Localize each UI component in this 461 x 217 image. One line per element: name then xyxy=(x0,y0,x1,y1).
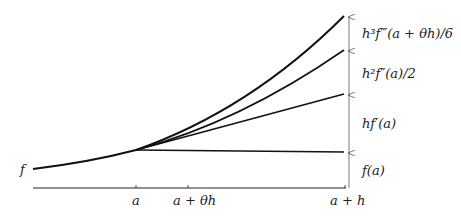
line-tangent xyxy=(136,94,344,150)
taylor-diagram: f a a + θh a + h f(a) hf′(a) h²f″(a)/2 h… xyxy=(0,0,461,217)
label-a-theta-h: a + θh xyxy=(173,193,216,208)
curve-f xyxy=(33,16,344,169)
label-f: f xyxy=(19,162,27,177)
label-a: a xyxy=(132,193,140,208)
label-h2-term: h²f″(a)/2 xyxy=(362,66,416,81)
label-h3-term: h³f‴(a + θh)/6 xyxy=(362,26,453,41)
label-a-h: a + h xyxy=(330,193,365,208)
line-constant xyxy=(136,150,344,152)
label-fa: f(a) xyxy=(361,163,385,178)
label-hf-prime: hf′(a) xyxy=(362,116,396,131)
